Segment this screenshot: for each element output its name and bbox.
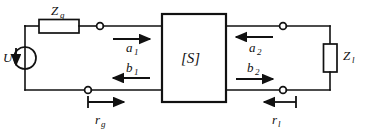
port1-connection	[85, 23, 162, 94]
load-impedance-zl: Z l	[324, 26, 356, 90]
zg-label-subscript: g	[60, 10, 65, 20]
rl-label-subscript: l	[278, 119, 281, 129]
wave-arrow-b2: b 2	[236, 60, 273, 79]
zl-body	[324, 44, 338, 72]
zg-body	[39, 20, 79, 34]
zl-label-subscript: l	[352, 55, 355, 65]
a2-label: a	[249, 40, 256, 55]
circuit-diagram: Z g U [S]	[0, 0, 373, 131]
scattering-matrix-block: [S]	[162, 14, 226, 102]
b2-label-subscript: 2	[255, 67, 260, 77]
wave-arrow-a2: a 2	[236, 37, 273, 57]
source-voltage-label: U	[3, 50, 14, 65]
b1-label-subscript: 1	[134, 67, 139, 77]
port1-bottom-terminal	[85, 87, 92, 94]
a2-label-subscript: 2	[257, 47, 262, 57]
port2-top-terminal	[280, 23, 287, 30]
zl-label: Z	[343, 48, 351, 63]
reflection-coefficient-rl: r l	[264, 96, 296, 129]
zg-label: Z	[51, 3, 59, 18]
wave-arrow-a1: a 1	[113, 39, 150, 57]
voltage-source: U	[3, 47, 36, 69]
series-impedance-zg: Z g	[39, 3, 97, 33]
b1-label: b	[126, 60, 133, 75]
reflection-coefficient-rg: r g	[88, 96, 124, 129]
wave-arrow-b1: b 1	[113, 60, 150, 78]
port2-bottom-terminal	[280, 87, 287, 94]
rg-label-subscript: g	[101, 119, 106, 129]
port2-connection	[226, 23, 330, 94]
network-block-label: [S]	[181, 50, 200, 66]
a1-label: a	[126, 40, 133, 55]
port1-top-terminal	[97, 23, 104, 30]
b2-label: b	[247, 60, 254, 75]
a1-label-subscript: 1	[134, 47, 139, 57]
circuit-canvas: Z g U [S]	[0, 0, 373, 131]
